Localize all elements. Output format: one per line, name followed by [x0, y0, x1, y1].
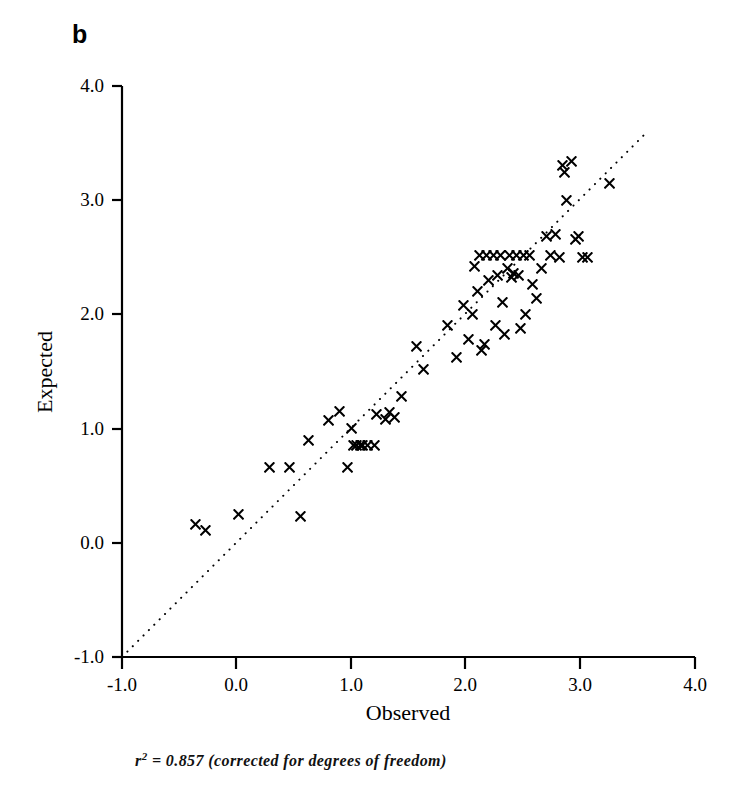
scatter-point [333, 405, 346, 418]
scatter-point [501, 262, 514, 275]
scatter-point [341, 461, 354, 474]
scatter-point [379, 413, 392, 426]
scatter-point [468, 260, 481, 273]
scatter-point [556, 159, 569, 172]
x-axis-ticks [122, 657, 695, 669]
scatter-point [361, 439, 374, 452]
scatter-point [473, 249, 486, 262]
scatter-point [370, 408, 383, 421]
scatter-point [569, 233, 582, 246]
scatter-point [553, 251, 566, 264]
y-axis-ticks [112, 86, 122, 657]
scatter-point [503, 249, 516, 262]
scatter-point [417, 363, 430, 376]
y-tick-label: 1.0 [80, 418, 104, 440]
scatter-point [480, 249, 493, 262]
scatter-point [475, 344, 488, 357]
scatter-point [491, 269, 504, 282]
scatter-point [487, 249, 500, 262]
x-tick-label: 1.0 [339, 674, 363, 696]
x-tick-label: 3.0 [568, 674, 592, 696]
r-squared-caption: r2 = 0.857 (corrected for degrees of fre… [135, 750, 447, 770]
scatter-point [383, 406, 396, 419]
x-tick-label: -1.0 [107, 674, 137, 696]
scatter-point [523, 249, 536, 262]
scatter-point [450, 351, 463, 364]
scatter-point [530, 292, 543, 305]
y-tick-label: 2.0 [80, 303, 104, 325]
scatter-point [489, 319, 502, 332]
scatter-point [494, 249, 507, 262]
x-axis-title: Observed [366, 700, 450, 726]
plot-area [122, 86, 695, 657]
scatter-point [356, 439, 369, 452]
caption-exponent: 2 [142, 750, 148, 762]
y-axis-title: Expected [32, 331, 58, 413]
scatter-point [498, 328, 511, 341]
scatter-point [540, 230, 553, 243]
scatter-point [558, 166, 571, 179]
scatter-point [283, 461, 296, 474]
scatter-point [345, 422, 358, 435]
scatter-point [441, 319, 454, 332]
scatter-point [354, 439, 367, 452]
scatter-point [462, 333, 475, 346]
scatter-point [505, 271, 518, 284]
scatter-point [517, 249, 530, 262]
scatter-point [199, 524, 212, 537]
scatter-point [544, 249, 557, 262]
scatter-point [471, 285, 484, 298]
scatter-point [560, 194, 573, 207]
scatter-point [526, 278, 539, 291]
scatter-point [572, 230, 585, 243]
scatter-point [581, 251, 594, 264]
y-tick-label: 4.0 [80, 75, 104, 97]
scatter-point [294, 510, 307, 523]
scatter-point [302, 434, 315, 447]
figure-panel-b: b 4.0 3.0 2.0 1.0 0.0 -1.0 [0, 0, 749, 795]
caption-r: r [135, 752, 142, 769]
scatter-point [322, 414, 335, 427]
scatter-point [507, 267, 520, 280]
scatter-point [478, 338, 491, 351]
scatter-point [388, 411, 401, 424]
scatter-point [263, 461, 276, 474]
scatter-point [535, 262, 548, 275]
scatter-point [189, 518, 202, 531]
x-tick-label: 2.0 [453, 674, 477, 696]
scatter-point [457, 299, 470, 312]
x-tick-label: 4.0 [683, 674, 707, 696]
caption-text: = 0.857 (corrected for degrees of freedo… [152, 752, 447, 769]
scatter-point [576, 251, 589, 264]
scatter-point [565, 155, 578, 168]
scatter-point [395, 390, 408, 403]
scatter-point [549, 228, 562, 241]
scatter-point [466, 308, 479, 321]
scatter-point [232, 508, 245, 521]
y-tick-label: 3.0 [80, 189, 104, 211]
scatter-point [350, 439, 363, 452]
y-tick-label: -1.0 [74, 646, 104, 668]
scatter-point [482, 274, 495, 287]
scatter-point [410, 340, 423, 353]
scatter-point [368, 439, 381, 452]
scatter-point [519, 308, 532, 321]
scatter-point [496, 296, 509, 309]
scatter-point [512, 269, 525, 282]
scatter-point [510, 249, 523, 262]
scatter-point [347, 439, 360, 452]
scatter-point [514, 322, 527, 335]
y-tick-label: 0.0 [80, 532, 104, 554]
x-tick-label: 0.0 [224, 674, 248, 696]
scatter-point [603, 177, 616, 190]
